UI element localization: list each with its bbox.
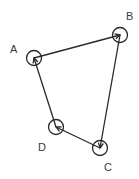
node-b-label: B	[126, 10, 133, 22]
edges-group	[33, 34, 120, 148]
edge-d-a	[34, 58, 56, 127]
edge-b-c	[100, 35, 120, 148]
node-a-label: A	[10, 43, 18, 55]
node-c-label: C	[104, 161, 112, 173]
edge-a-b	[34, 35, 120, 58]
quadrilateral-graph-diagram: ABCD	[0, 0, 139, 179]
node-d-label: D	[38, 141, 46, 153]
